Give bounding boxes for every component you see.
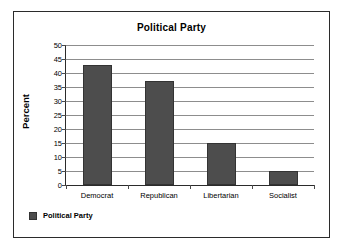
y-axis-tick-label: 15 (54, 139, 62, 148)
legend-swatch-icon (29, 212, 37, 220)
x-axis-tick-mark (66, 185, 67, 189)
x-axis-tick-mark (128, 185, 129, 189)
y-axis-tick-label: 10 (54, 153, 62, 162)
y-axis-title: Percent (20, 82, 31, 142)
y-axis-tick-label: 40 (54, 69, 62, 78)
bar-libertarian[interactable] (207, 143, 236, 185)
y-axis-tick-label: 20 (54, 125, 62, 134)
y-axis-tick-label: 30 (54, 97, 62, 106)
plot-area: 05101520253035404550 (66, 45, 314, 185)
bar-slot (66, 45, 128, 185)
x-axis-label: Libertarian (190, 191, 252, 200)
bar-republican[interactable] (145, 81, 174, 185)
x-axis-tick-mark (252, 185, 253, 189)
legend-label: Political Party (43, 211, 93, 220)
bar-slot (128, 45, 190, 185)
x-axis-tick-mark (314, 185, 315, 189)
bar-slot (252, 45, 314, 185)
x-axis-label: Republican (128, 191, 190, 200)
x-axis-labels: DemocratRepublicanLibertarianSocialist (66, 191, 314, 200)
chart-title: Political Party (14, 22, 329, 33)
bar-socialist[interactable] (269, 171, 298, 185)
y-axis-tick-label: 25 (54, 111, 62, 120)
y-axis-tick-label: 5 (58, 167, 62, 176)
bar-group (66, 45, 314, 185)
y-axis-tick-label: 35 (54, 83, 62, 92)
bar-democrat[interactable] (83, 65, 112, 185)
chart-frame: Political Party Percent 0510152025303540… (13, 11, 330, 238)
y-axis-tick-label: 45 (54, 55, 62, 64)
y-axis-tick-label: 0 (58, 181, 62, 190)
x-axis-label: Democrat (66, 191, 128, 200)
x-axis-label: Socialist (252, 191, 314, 200)
y-axis-tick-label: 50 (54, 41, 62, 50)
bar-slot (190, 45, 252, 185)
legend: Political Party (29, 211, 93, 220)
x-axis-tick-mark (190, 185, 191, 189)
x-axis-line (66, 185, 314, 186)
